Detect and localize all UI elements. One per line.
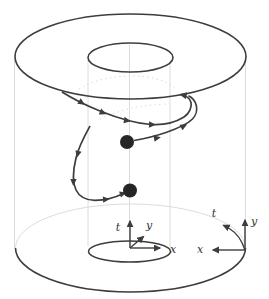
flow-arrow	[70, 179, 77, 186]
y-axis-label-center: y	[145, 219, 153, 232]
poincare-point-upper	[120, 135, 134, 149]
spiral-hidden-back-arc-lower	[100, 104, 169, 119]
t-axis-label-center: t	[116, 221, 121, 234]
t-axis-label-right: t	[212, 207, 217, 220]
torus-outline	[15, 14, 246, 292]
flow-arrow	[103, 196, 110, 203]
inner-hole-top-ellipse	[88, 43, 173, 72]
x-axis-label-center: x	[170, 243, 177, 256]
poincare-point-lower	[123, 184, 137, 198]
outer-cylinder-top-ellipse	[15, 14, 246, 99]
y-axis-label-right: y	[250, 215, 258, 228]
center-frame-labels: t y x	[116, 219, 177, 256]
x-axis-label-right: x	[197, 243, 204, 256]
figure-canvas: t y x t y x	[0, 0, 269, 299]
spiral-descent-segment	[73, 126, 127, 200]
spiral-front-coil-from-upper-dot	[134, 96, 197, 141]
y-axis-center	[130, 237, 144, 249]
flow-arrow	[74, 150, 82, 158]
flow-arrow	[149, 121, 156, 128]
spiral-hidden-back-arc-upper	[79, 76, 176, 89]
torus-diagram-svg: t y x t y x	[0, 0, 269, 299]
cylinder-bottom-front-arc	[16, 248, 246, 292]
flow-arrow	[77, 98, 86, 107]
